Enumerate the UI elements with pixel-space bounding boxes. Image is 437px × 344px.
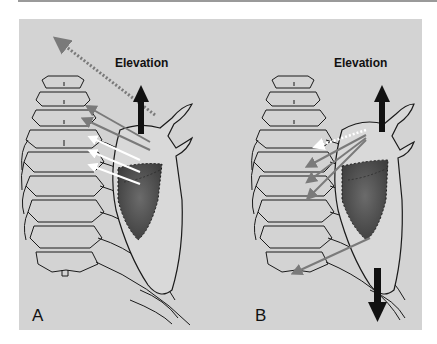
shoulder-diagram	[0, 0, 437, 344]
spine-a	[24, 76, 104, 276]
panel-letter-a: A	[32, 306, 43, 326]
elevation-label-b: Elevation	[334, 56, 387, 70]
panel-letter-b: B	[255, 306, 266, 326]
panel-a	[21, 42, 192, 325]
spine-b	[254, 76, 334, 272]
panel-b	[251, 76, 414, 322]
elevation-label-a: Elevation	[115, 56, 168, 70]
